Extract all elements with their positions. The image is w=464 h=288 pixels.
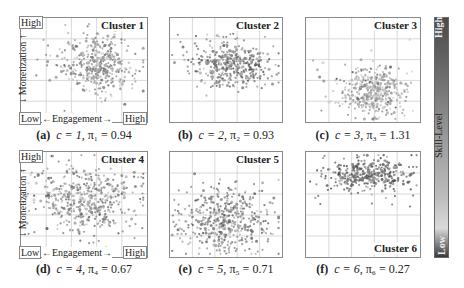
caption-b: (b) c = 2, π₂ = 0.93 bbox=[160, 128, 292, 143]
cluster-title: Cluster 5 bbox=[235, 153, 280, 165]
cluster-title: Cluster 6 bbox=[373, 242, 418, 254]
caption-f: (f) c = 6, π₆ = 0.27 bbox=[297, 262, 429, 277]
scatter-plot bbox=[170, 18, 282, 122]
x-axis-label: ←Engagement→ bbox=[42, 113, 112, 124]
caption-d: (d) c = 4, π₄ = 0.67 bbox=[20, 262, 148, 277]
y-axis-low-label: Low bbox=[19, 246, 41, 259]
scatter-panel-e: Cluster 5 bbox=[169, 151, 283, 258]
y-axis-low-label: Low bbox=[19, 112, 41, 125]
scatter-plot bbox=[306, 18, 420, 122]
scatter-panel-d: Cluster 4 bbox=[20, 151, 148, 258]
x-axis-high-label: High bbox=[123, 112, 147, 125]
cluster-title: Cluster 3 bbox=[373, 19, 418, 31]
colorbar-high-label: High bbox=[433, 17, 444, 38]
scatter-panel-f: Cluster 6 bbox=[305, 151, 421, 258]
x-axis-high-label: High bbox=[123, 246, 147, 259]
colorbar-label: Skill-Level bbox=[433, 113, 444, 158]
scatter-plot bbox=[170, 152, 282, 257]
caption-e: (e) c = 5, π₅ = 0.71 bbox=[160, 262, 292, 277]
caption-c: (c) c = 3, π₃ = 1.31 bbox=[297, 128, 429, 143]
cluster-title: Cluster 2 bbox=[235, 19, 280, 31]
caption-a: (a) c = 1, π₁ = 0.94 bbox=[20, 128, 148, 143]
x-axis-label: ←Engagement→ bbox=[42, 247, 112, 258]
y-axis-label: ↓ Monetization ↑ bbox=[17, 158, 28, 248]
cluster-title: Cluster 1 bbox=[100, 19, 145, 31]
scatter-panel-b: Cluster 2 bbox=[169, 17, 283, 123]
scatter-plot bbox=[21, 152, 147, 257]
colorbar-low-label: Low bbox=[436, 236, 447, 255]
cluster-title: Cluster 4 bbox=[100, 153, 145, 165]
scatter-panel-c: Cluster 3 bbox=[305, 17, 421, 123]
scatter-plot bbox=[21, 18, 147, 122]
scatter-panel-a: Cluster 1 bbox=[20, 17, 148, 123]
y-axis-label: ↓ Monetization ↑ bbox=[17, 24, 28, 114]
